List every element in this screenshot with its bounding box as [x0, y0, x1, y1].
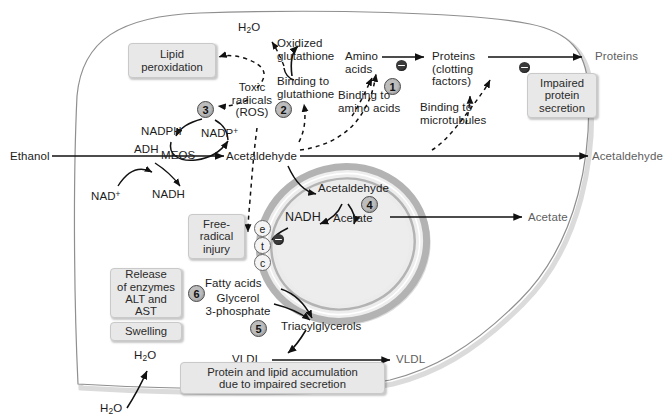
label-acetaldehyde-mitochondrial: Acetaldehyde	[318, 182, 389, 195]
step-badge-3[interactable]: 3	[197, 101, 214, 118]
label-acetate-exported: Acetate	[528, 211, 568, 224]
label-acetaldehyde-cytosol: Acetaldehyde	[226, 150, 297, 163]
callout-swelling[interactable]: Swelling	[110, 322, 182, 341]
etc-circle-c[interactable]: c	[254, 254, 271, 271]
inhibition-badge-etc	[273, 234, 284, 245]
label-water-intracellular: H2O	[134, 349, 156, 364]
step-badge-2[interactable]: 2	[275, 101, 292, 118]
label-water-top: H2O	[238, 21, 260, 36]
label-binding-to-glutathione: Binding to glutathione	[277, 75, 334, 100]
step-badge-5[interactable]: 5	[250, 320, 267, 337]
label-binding-to-amino-acids: Binding to amino acids	[338, 89, 400, 114]
etc-circle-e[interactable]: e	[254, 220, 271, 237]
inhibition-badge-amino-acids	[396, 60, 407, 71]
callout-lipid-peroxidation[interactable]: Lipid peroxidation	[128, 43, 216, 78]
label-nad-plus: NAD+	[91, 188, 121, 203]
inhibition-badge-protein-secretion	[519, 62, 530, 73]
label-nadh-mitochondrial: NADH	[285, 211, 321, 224]
label-nadph: NADPH	[141, 125, 182, 138]
label-triacylglycerols: Triacylglycerols	[281, 320, 361, 333]
label-proteins-exported: Proteins	[595, 50, 638, 63]
label-toxic-radicals: Toxic radicals (ROS)	[232, 81, 272, 119]
label-nadh-cytosol: NADH	[152, 188, 185, 201]
callout-free-radical-injury[interactable]: Free- radical injury	[188, 214, 245, 259]
callout-release-of-enzymes[interactable]: Release of enzymes ALT and AST	[110, 268, 182, 318]
label-fatty-acids: Fatty acids	[205, 277, 262, 290]
label-acetate-mitochondrial: Acetate	[333, 212, 373, 225]
label-oxidized-glutathione: Oxidized glutathione	[277, 37, 334, 62]
label-water-extracellular: H2O	[100, 402, 122, 417]
label-nadp-plus: NADP+	[201, 125, 238, 140]
callout-impaired-protein-secretion[interactable]: Impaired protein secretion	[527, 73, 597, 118]
label-adh-enzyme: ADH	[134, 143, 159, 156]
label-ethanol: Ethanol	[10, 150, 50, 163]
label-proteins-clotting-factors: Proteins (clotting factors)	[432, 50, 475, 88]
label-vldl-exported: VLDL	[396, 353, 425, 366]
label-meos-enzyme: MEOS	[161, 149, 195, 162]
label-glycerol-3-phosphate: Glycerol 3-phosphate	[205, 292, 270, 317]
label-acetaldehyde-exported: Acetaldehyde	[592, 150, 663, 163]
step-badge-6[interactable]: 6	[188, 285, 205, 302]
step-badge-4[interactable]: 4	[361, 196, 378, 213]
label-amino-acids: Amino acids	[345, 50, 378, 75]
label-binding-to-microtubules: Binding to microtubules	[420, 101, 486, 126]
callout-protein-lipid-accumulation[interactable]: Protein and lipid accumulation due to im…	[180, 362, 385, 394]
etc-circle-t[interactable]: t	[254, 237, 271, 254]
